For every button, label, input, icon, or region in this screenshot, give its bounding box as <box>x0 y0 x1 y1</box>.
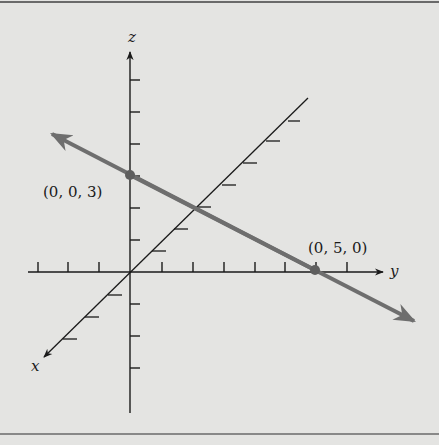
x-axis <box>44 98 308 357</box>
point-label-0-5-0: (0, 5, 0) <box>308 239 367 257</box>
point-0-5-0 <box>310 265 320 275</box>
3d-axes-figure: z y x (0, 0, 3) (0, 5, 0) <box>0 0 439 445</box>
diagram-canvas: z y x (0, 0, 3) (0, 5, 0) <box>0 0 439 445</box>
point-label-0-0-3: (0, 0, 3) <box>43 183 102 201</box>
z-axis-label: z <box>127 28 136 46</box>
y-axis <box>28 262 383 272</box>
y-axis-label: y <box>389 262 399 280</box>
line-through-points-extension <box>130 175 414 321</box>
point-0-0-3 <box>125 170 135 180</box>
z-axis <box>130 52 140 413</box>
x-axis-label: x <box>31 357 40 375</box>
